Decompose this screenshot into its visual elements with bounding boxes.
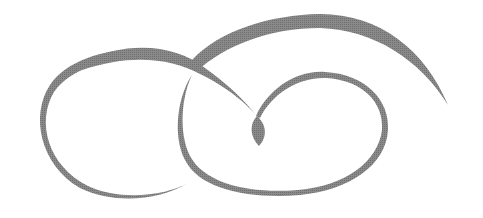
left-loop-stroke	[40, 49, 192, 198]
left-arc-to-center	[80, 48, 258, 118]
flourish-svg	[0, 0, 483, 218]
flourish-ornament: Decorative calligraphic flourish ornamen…	[0, 0, 483, 218]
center-teardrop	[252, 116, 265, 146]
right-inner-arc	[178, 72, 388, 196]
